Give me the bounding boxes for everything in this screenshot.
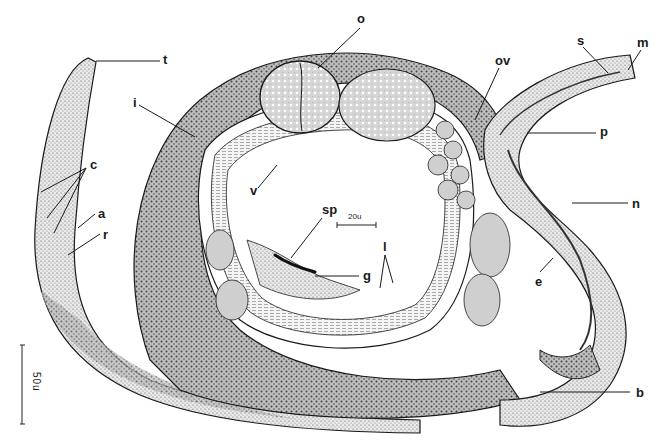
nematode-illustration [0, 0, 663, 443]
leader-line-e [540, 258, 553, 272]
label-o: o [357, 12, 365, 25]
leader-line-a [78, 214, 95, 228]
label-l: l [383, 240, 387, 253]
main-scale-label: 50u [31, 372, 42, 392]
label-c: c [90, 158, 97, 171]
label-b: b [636, 386, 644, 399]
label-sp: sp [322, 203, 337, 216]
label-t: t [163, 53, 167, 66]
label-r: r [103, 228, 108, 241]
label-s: s [577, 34, 584, 47]
inset-scale-label: 20u [348, 212, 361, 221]
label-a: a [98, 207, 105, 220]
label-ov: ov [495, 54, 510, 67]
label-i: i [133, 96, 137, 109]
label-v: v [250, 184, 257, 197]
label-p: p [600, 125, 608, 138]
label-n: n [632, 197, 640, 210]
label-e: e [535, 275, 542, 288]
label-g: g [363, 269, 371, 282]
label-m: m [637, 36, 649, 49]
